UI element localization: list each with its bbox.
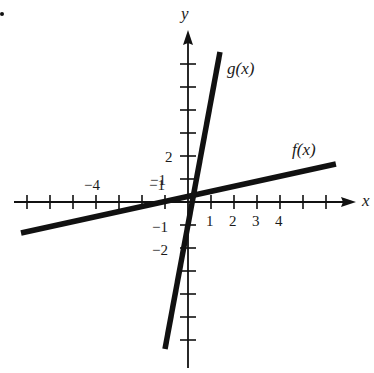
x-tick-label-neg4: −4	[84, 177, 100, 193]
x-axis-label: x	[361, 191, 370, 210]
x-tick-label-3: 3	[252, 213, 260, 229]
y-axis-arrow-icon	[183, 30, 193, 45]
x-tick-label-2: 2	[229, 213, 237, 229]
corner-dot	[0, 12, 4, 16]
f-label: f(x)	[292, 140, 316, 159]
y-tick-label-2: 2	[165, 149, 173, 165]
x-tick-label-1: 1	[206, 213, 214, 229]
x-axis-arrow-icon	[341, 197, 356, 207]
y-tick-label-1: −1	[150, 172, 166, 188]
function-graph: x y g(x) f(x) −4 −1 1 2 3 4 2 −1 −1 −2	[0, 0, 374, 373]
y-axis-label: y	[179, 4, 189, 23]
y-tick-label-neg1: −1	[152, 219, 168, 235]
g-label: g(x)	[227, 59, 255, 78]
x-tick-label-4: 4	[275, 213, 283, 229]
line-f	[21, 164, 336, 233]
y-tick-label-neg2: −2	[152, 242, 168, 258]
